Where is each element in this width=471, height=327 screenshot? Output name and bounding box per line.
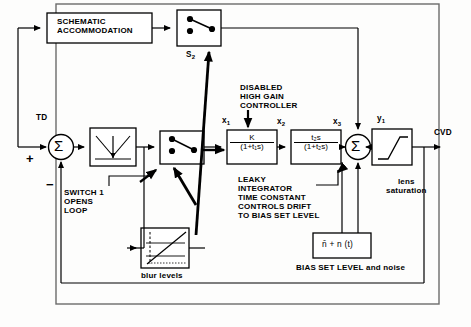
switch-s1-block[interactable] (160, 131, 204, 164)
washout-denominator: (1+t₂s) (294, 142, 338, 151)
s2-pole-b (187, 28, 193, 34)
signal-x1-label: x1 (222, 116, 230, 127)
washout-transfer-function: t₂s (1+t₂s) (294, 134, 338, 152)
washout-numerator: t₂s (294, 134, 338, 142)
noise-caption: BIAS SET LEVEL and noise (296, 264, 405, 273)
diagram-vector-layer (0, 0, 471, 327)
plus-sign: + (26, 152, 34, 167)
arrow-blur-to-switch1 (174, 168, 196, 205)
gain-transfer-function: K (1+t₁s) (230, 134, 274, 152)
block-diagram-canvas: SCHEMATIC ACCOMMODATION S2 TD + − x1 x2 … (0, 0, 471, 327)
blur-levels-block (141, 228, 189, 268)
signal-x2-label: x2 (277, 117, 285, 128)
gain-denominator: (1+t₁s) (230, 142, 274, 151)
signal-y1-label: y1 (377, 114, 385, 125)
schematic-accommodation-label: SCHEMATIC ACCOMMODATION (57, 18, 133, 36)
signal-x3-label: x3 (333, 117, 341, 128)
switch-opens-loop-annotation: SWITCH 1 OPENS LOOP (64, 189, 104, 216)
switch-s2-label: S2 (186, 50, 195, 61)
gain-numerator: K (230, 134, 274, 142)
leaky-integrator-annotation: LEAKY INTEGRATOR TIME CONSTANT CONTROLS … (238, 176, 320, 221)
output-sum-symbol: Σ (351, 138, 360, 155)
minus-sign: − (46, 178, 54, 193)
blur-levels-caption: blur levels (141, 272, 183, 281)
input-sum-symbol: Σ (54, 138, 63, 155)
cvd-output-label: CVD (434, 128, 452, 137)
lens-saturation-caption: lens saturation (386, 178, 427, 196)
td-label: TD (36, 113, 47, 122)
disabled-controller-annotation: DISABLED HIGH GAIN CONTROLLER (240, 84, 298, 111)
s1-pole-b (169, 148, 175, 154)
noise-expression: n̄ + n (t) (322, 240, 353, 249)
